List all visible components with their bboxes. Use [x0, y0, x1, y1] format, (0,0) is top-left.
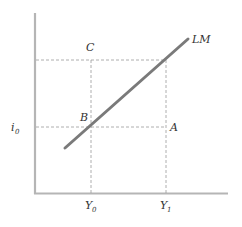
point-a-label: A — [169, 121, 178, 134]
i0-label: i 0 — [11, 121, 20, 136]
y1-tick-label: Y 1 — [160, 199, 171, 214]
y0-tick-label: Y 0 — [85, 199, 97, 214]
svg-text:1: 1 — [167, 206, 171, 214]
svg-text:0: 0 — [92, 206, 97, 214]
lm-diagram: LM C B A i 0 Y 0 Y 1 — [0, 0, 242, 227]
svg-text:i: i — [11, 121, 15, 134]
lm-label: LM — [191, 33, 211, 46]
point-b-label: B — [79, 111, 88, 124]
point-c-label: C — [86, 41, 95, 54]
svg-text:0: 0 — [15, 128, 20, 136]
